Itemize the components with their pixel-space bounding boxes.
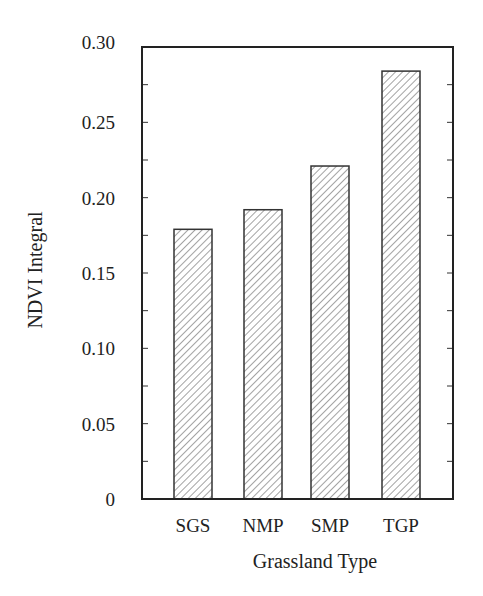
y-axis-label: NDVI Integral	[24, 211, 47, 328]
x-tick-label: SMP	[295, 516, 365, 535]
x-axis-label: Grassland Type	[150, 550, 480, 573]
x-tick-label: SGS	[158, 516, 228, 535]
y-tick-label: 0.10	[55, 339, 115, 358]
bar-nmp	[244, 210, 282, 499]
bar-sgs	[174, 229, 212, 499]
y-tick-label: 0.25	[55, 113, 115, 132]
y-tick-label: 0.15	[55, 264, 115, 283]
y-tick-label: 0.05	[55, 415, 115, 434]
bars	[174, 71, 420, 499]
y-tick-label: 0.30	[55, 33, 115, 52]
y-tick-label: 0.20	[55, 189, 115, 208]
x-tick-label: TGP	[366, 516, 436, 535]
bar-tgp	[382, 71, 420, 499]
bar-smp	[311, 166, 349, 499]
x-tick-label: NMP	[228, 516, 298, 535]
y-tick-label: 0	[55, 490, 115, 509]
